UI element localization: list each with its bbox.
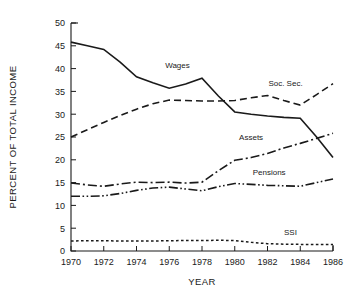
- x-tick-label: 1984: [290, 257, 310, 267]
- series-line-assets: [71, 133, 333, 186]
- x-tick-label: 1978: [192, 257, 212, 267]
- series-label-assets: Assets: [239, 133, 263, 142]
- x-tick-label: 1972: [94, 257, 114, 267]
- y-tick-label: 50: [55, 18, 65, 28]
- series-label-wages: Wages: [165, 61, 190, 70]
- x-tick-label: 1974: [126, 257, 146, 267]
- x-tick-label: 1980: [225, 257, 245, 267]
- chart-canvas: 0510152025303540455019701972197419761978…: [0, 0, 346, 304]
- y-tick-label: 20: [55, 155, 65, 165]
- income-composition-line-chart: 0510152025303540455019701972197419761978…: [0, 0, 346, 304]
- x-tick-label: 1970: [61, 257, 81, 267]
- x-tick-label: 1976: [159, 257, 179, 267]
- y-tick-label: 35: [55, 87, 65, 97]
- y-tick-label: 25: [55, 132, 65, 142]
- y-tick-label: 10: [55, 201, 65, 211]
- series-line-wages: [71, 42, 333, 157]
- series-label-pensions: Pensions: [253, 168, 286, 177]
- y-tick-label: 5: [60, 224, 65, 234]
- plot-axes: [71, 23, 333, 251]
- x-tick-label: 1982: [257, 257, 277, 267]
- x-tick-label: 1986: [323, 257, 343, 267]
- series-label-ssi: SSI: [284, 228, 297, 237]
- y-tick-label: 40: [55, 64, 65, 74]
- series-line-soc-sec: [71, 84, 333, 137]
- y-axis-title: PERCENT OF TOTAL INCOME: [7, 66, 18, 209]
- y-tick-label: 15: [55, 178, 65, 188]
- y-tick-label: 30: [55, 110, 65, 120]
- y-tick-label: 45: [55, 41, 65, 51]
- series-label-soc-sec: Soc. Sec.: [268, 79, 302, 88]
- series-line-ssi: [71, 240, 333, 244]
- y-tick-label: 0: [60, 246, 65, 256]
- x-axis-title: YEAR: [188, 276, 215, 287]
